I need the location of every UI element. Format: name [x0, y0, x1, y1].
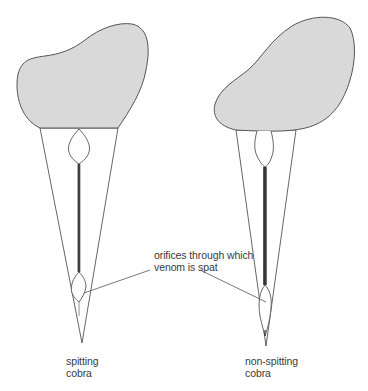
spitting-label-line-1: spitting [66, 355, 98, 367]
venom-canal-left [78, 164, 81, 272]
non-spitting-label-line-2: cobra [245, 367, 271, 379]
diagram-canvas: orifices through which venom is spat spi… [0, 0, 368, 391]
non-spitting-label-line-1: non-spitting [245, 355, 298, 367]
annotation-label: orifices through which venom is spat [154, 249, 253, 273]
spitting-cobra-fang [17, 24, 148, 343]
annotation-line-1: orifices through which [154, 249, 253, 261]
fang-root-left [17, 24, 148, 128]
fang-root-right [214, 17, 354, 131]
non-spitting-cobra-label: non-spitting cobra [245, 355, 298, 379]
non-spitting-cobra-fang [214, 17, 354, 346]
annotation-line-2: venom is spat [154, 261, 217, 273]
spitting-cobra-label: spitting cobra [66, 355, 98, 379]
fang-diagram [0, 0, 368, 391]
annotation-leaders [84, 270, 266, 302]
venom-canal-right [263, 167, 267, 285]
lower-orifice-right [259, 285, 271, 336]
spitting-label-line-2: cobra [66, 367, 92, 379]
